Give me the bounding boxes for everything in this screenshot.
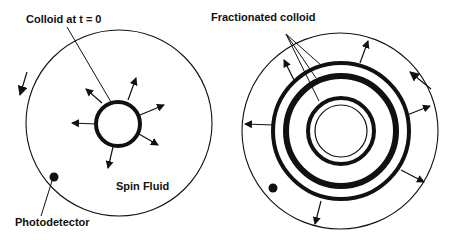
left-panel: Colloid at t = 0 Photodetector Spin Flui… [15,13,212,228]
photodetector-pointer-line [41,181,52,216]
colloid-band-inner [308,98,374,164]
photodetector-dot [50,173,59,182]
colloid-t0-label: Colloid at t = 0 [26,13,101,25]
rotation-arrow-icon [20,72,27,95]
core-ring [315,105,367,157]
photodetector-label: Photodetector [15,216,90,228]
radial-arrows [72,78,164,168]
colloid-band-outer [273,63,409,199]
fractionated-rings [273,63,409,199]
colloid-pointer-line [67,27,111,102]
right-panel: Fractionated colloid [211,11,438,229]
fractionated-colloid-label: Fractionated colloid [211,11,316,23]
colloid-ring [96,102,140,146]
colloid-band-middle [286,76,396,186]
spin-fluid-label: Spin Fluid [116,180,169,192]
photodetector-dot [269,184,278,193]
centrifuge-diagram: Colloid at t = 0 Photodetector Spin Flui… [0,0,452,240]
